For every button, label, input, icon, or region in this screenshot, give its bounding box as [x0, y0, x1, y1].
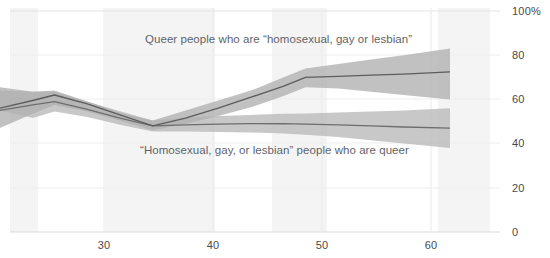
y-axis-label-0: 0: [512, 226, 518, 238]
annotation-lower-series: “Homosexual, gay, or lesbian” people who…: [140, 144, 409, 156]
y-axis-label-100: 100%: [512, 5, 541, 17]
y-axis-label-80: 80: [512, 49, 525, 61]
x-axis-label-40: 40: [207, 239, 220, 251]
chart-container: Queer people who are “homosexual, gay or…: [0, 0, 550, 258]
y-axis-label-20: 20: [512, 182, 525, 194]
y-axis-label-60: 60: [512, 93, 525, 105]
annotation-upper-series: Queer people who are “homosexual, gay or…: [145, 33, 412, 45]
x-axis-label-50: 50: [316, 239, 329, 251]
y-axis-label-40: 40: [512, 137, 525, 149]
x-axis-label-30: 30: [98, 239, 111, 251]
x-axis-label-60: 60: [425, 239, 438, 251]
